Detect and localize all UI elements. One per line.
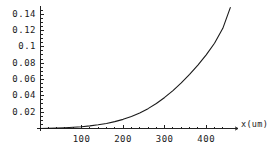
x-tick-label: 100 bbox=[68, 135, 96, 144]
data-series-group bbox=[40, 8, 230, 129]
y-axis bbox=[40, 6, 44, 131]
x-tick-label: 400 bbox=[192, 135, 220, 144]
y-tick-label: 0.02 bbox=[12, 108, 36, 117]
y-tick-label: 0.12 bbox=[12, 26, 36, 35]
chart-canvas bbox=[0, 0, 276, 151]
y-tick-label: 0.06 bbox=[12, 75, 36, 84]
chart-figure: 0.020.040.060.080.10.120.14 100200300400… bbox=[0, 0, 276, 151]
x-tick-label: 200 bbox=[109, 135, 137, 144]
y-tick-label: 0.08 bbox=[12, 59, 36, 68]
x-tick-label: 300 bbox=[151, 135, 179, 144]
x-axis-title: x(um) bbox=[241, 120, 268, 129]
data-series-line-0 bbox=[40, 8, 230, 129]
y-tick-label: 0.04 bbox=[12, 91, 36, 100]
y-tick-label: 0.14 bbox=[12, 10, 36, 19]
y-tick-label: 0.1 bbox=[18, 42, 36, 51]
